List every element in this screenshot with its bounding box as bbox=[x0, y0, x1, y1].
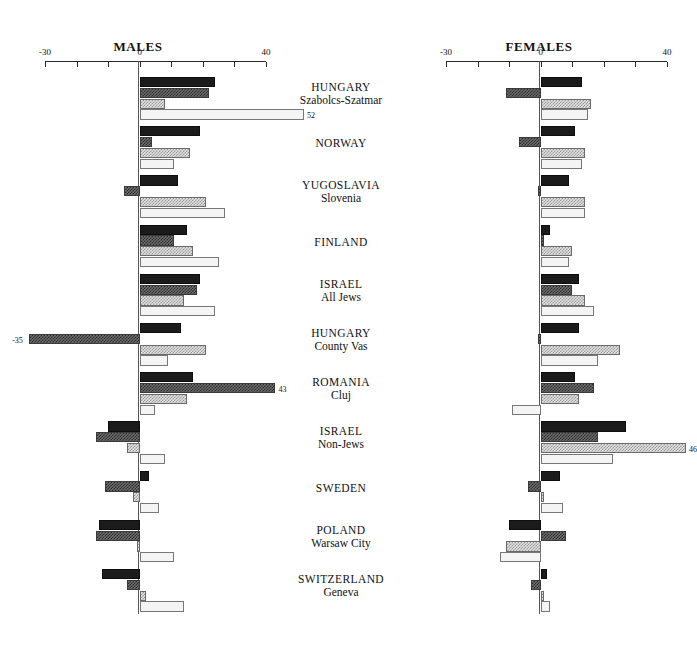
axis-tick bbox=[509, 62, 510, 67]
category-label-sub: County Vas bbox=[256, 340, 426, 353]
bar bbox=[140, 372, 194, 382]
bar bbox=[541, 345, 620, 355]
axis-tick bbox=[140, 62, 141, 67]
top-text-fragment bbox=[0, 0, 682, 12]
bar bbox=[96, 432, 140, 442]
bar bbox=[541, 355, 598, 365]
bar bbox=[140, 323, 181, 333]
category-label: HUNGARYSzabolcs-Szatmar bbox=[256, 81, 426, 107]
bar bbox=[538, 334, 541, 344]
bar bbox=[500, 552, 541, 562]
axis-tick-label: -30 bbox=[31, 47, 59, 57]
bar bbox=[140, 109, 304, 119]
axis-line-females bbox=[446, 61, 667, 62]
bar bbox=[140, 552, 175, 562]
bar bbox=[124, 186, 140, 196]
bar bbox=[133, 492, 139, 502]
bar bbox=[541, 601, 550, 611]
axis-tick bbox=[234, 62, 235, 67]
bar bbox=[519, 137, 541, 147]
bar bbox=[140, 345, 206, 355]
bar bbox=[140, 285, 197, 295]
bar bbox=[140, 208, 225, 218]
bar bbox=[127, 443, 140, 453]
category-label: ISRAELNon-Jews bbox=[256, 425, 426, 451]
bar bbox=[140, 88, 209, 98]
category-label-sub: Szabolcs-Szatmar bbox=[256, 94, 426, 107]
category-label-main: HUNGARY bbox=[256, 81, 426, 94]
bar bbox=[541, 531, 566, 541]
bar bbox=[140, 306, 216, 316]
category-label-main: ROMANIA bbox=[256, 376, 426, 389]
bar bbox=[140, 257, 219, 267]
bar bbox=[140, 503, 159, 513]
category-label-main: YUGOSLAVIA bbox=[256, 179, 426, 192]
bar bbox=[140, 405, 156, 415]
axis-tick-label: 0 bbox=[126, 47, 154, 57]
bar bbox=[140, 148, 191, 158]
bar bbox=[541, 432, 598, 442]
bar bbox=[541, 306, 595, 316]
axis-tick bbox=[45, 62, 46, 67]
bar-value-label: 52 bbox=[307, 111, 315, 120]
bar bbox=[140, 77, 216, 87]
category-label-main: POLAND bbox=[256, 524, 426, 537]
bar bbox=[140, 471, 149, 481]
category-label: POLANDWarsaw City bbox=[256, 524, 426, 550]
bar bbox=[140, 274, 200, 284]
bar bbox=[531, 580, 540, 590]
bar bbox=[541, 257, 569, 267]
axis-tick bbox=[478, 62, 479, 67]
bar bbox=[512, 405, 540, 415]
bar-value-label: -35 bbox=[12, 336, 23, 345]
bar bbox=[140, 355, 168, 365]
category-label-main: ISRAEL bbox=[256, 278, 426, 291]
category-label: HUNGARYCounty Vas bbox=[256, 327, 426, 353]
category-label: YUGOSLAVIASlovenia bbox=[256, 179, 426, 205]
bar bbox=[541, 235, 544, 245]
category-label: NORWAY bbox=[256, 137, 426, 150]
bar bbox=[541, 591, 544, 601]
axis-tick bbox=[635, 62, 636, 67]
category-label-main: SWEDEN bbox=[256, 482, 426, 495]
bar bbox=[140, 394, 187, 404]
bar bbox=[127, 580, 140, 590]
bar bbox=[102, 569, 140, 579]
bar bbox=[541, 372, 576, 382]
bar bbox=[140, 137, 153, 147]
bar bbox=[99, 520, 140, 530]
bar bbox=[509, 520, 541, 530]
axis-tick bbox=[266, 62, 267, 67]
category-label-sub: Non-Jews bbox=[256, 438, 426, 451]
axis-tick-label: -30 bbox=[432, 47, 460, 57]
bar bbox=[140, 175, 178, 185]
bar bbox=[140, 126, 200, 136]
bar bbox=[140, 454, 165, 464]
bar bbox=[541, 175, 569, 185]
category-label: SWITZERLANDGeneva bbox=[256, 573, 426, 599]
bar bbox=[538, 186, 541, 196]
axis-tick bbox=[203, 62, 204, 67]
bar bbox=[541, 295, 585, 305]
bar bbox=[541, 77, 582, 87]
bar bbox=[541, 454, 614, 464]
bar bbox=[541, 471, 560, 481]
axis-tick bbox=[171, 62, 172, 67]
bar bbox=[541, 492, 544, 502]
bar bbox=[140, 197, 206, 207]
bar bbox=[140, 591, 146, 601]
bar-value-label: 46 bbox=[689, 445, 697, 454]
axis-tick bbox=[572, 62, 573, 67]
category-label-sub: Slovenia bbox=[256, 192, 426, 205]
category-label-sub: Cluj bbox=[256, 389, 426, 402]
category-label-sub: All Jews bbox=[256, 291, 426, 304]
bar bbox=[140, 159, 175, 169]
bar bbox=[541, 148, 585, 158]
bar bbox=[506, 88, 541, 98]
category-label: ROMANIACluj bbox=[256, 376, 426, 402]
axis-line-males bbox=[45, 61, 266, 62]
bar bbox=[140, 235, 175, 245]
bar bbox=[541, 503, 563, 513]
bar bbox=[541, 159, 582, 169]
